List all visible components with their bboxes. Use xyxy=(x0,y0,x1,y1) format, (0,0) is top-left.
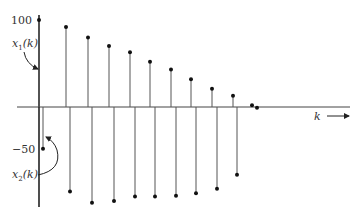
stem-marker xyxy=(153,195,157,199)
stem-marker xyxy=(255,106,259,110)
stem-marker xyxy=(68,189,72,193)
x2-label: x2(k) xyxy=(12,168,38,183)
stem-marker xyxy=(112,199,116,203)
stem-marker xyxy=(215,187,219,191)
y-tick-neg50: −50 xyxy=(12,143,35,156)
stem-marker xyxy=(235,173,239,177)
stem-marker xyxy=(194,191,198,195)
x2-pointer-arrow xyxy=(38,137,58,175)
stem-marker xyxy=(64,25,68,29)
stem-marker xyxy=(90,201,94,205)
stem-marker xyxy=(37,18,41,22)
stem-marker xyxy=(86,35,90,39)
stem-marker xyxy=(148,60,152,64)
stem-marker xyxy=(107,44,111,48)
stem-marker xyxy=(174,194,178,198)
stem-marker xyxy=(210,87,214,91)
x1-label: x1(k) xyxy=(12,37,38,52)
stem-marker xyxy=(169,68,173,72)
stem-marker xyxy=(189,77,193,81)
x1-pointer-arrow xyxy=(24,52,38,69)
series-x2-stems xyxy=(41,106,259,205)
stem-marker xyxy=(250,103,254,107)
stem-marker xyxy=(41,147,45,151)
stem-plot: 100 −50 x1(k) x2(k) k xyxy=(0,0,361,215)
k-axis-label: k xyxy=(314,110,321,123)
y-tick-100: 100 xyxy=(11,14,32,27)
series-x1-stems xyxy=(37,18,254,107)
stem-marker xyxy=(128,50,132,54)
stem-marker xyxy=(133,195,137,199)
stem-marker xyxy=(231,94,235,98)
